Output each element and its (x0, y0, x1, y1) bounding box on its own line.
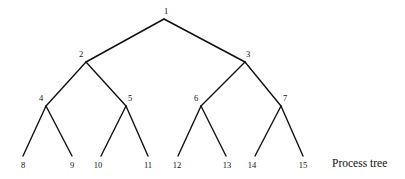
tree-node-15: 15 (299, 161, 308, 170)
tree-edge-7-14 (255, 106, 281, 156)
tree-edge-2-5 (86, 62, 126, 106)
tree-node-10: 10 (94, 161, 103, 170)
tree-edge-2-4 (46, 62, 86, 106)
tree-node-1: 1 (164, 7, 168, 16)
process-tree-figure: 123456789101112131415 Process tree (0, 0, 405, 179)
tree-node-7: 7 (283, 94, 287, 103)
tree-node-11: 11 (144, 161, 152, 170)
tree-node-14: 14 (248, 161, 257, 170)
tree-edges-svg (0, 0, 405, 179)
tree-node-5: 5 (128, 94, 132, 103)
tree-edge-4-9 (46, 106, 72, 156)
tree-edge-3-7 (245, 62, 281, 106)
tree-edge-5-11 (126, 106, 148, 156)
edge-group (23, 19, 303, 156)
tree-node-9: 9 (70, 161, 74, 170)
tree-node-8: 8 (21, 161, 25, 170)
tree-edge-1-3 (164, 19, 245, 62)
tree-edge-6-13 (201, 106, 226, 156)
tree-node-3: 3 (246, 50, 250, 59)
figure-caption: Process tree (332, 158, 387, 170)
tree-edge-6-12 (178, 106, 201, 156)
tree-node-12: 12 (173, 161, 182, 170)
tree-edge-3-6 (201, 62, 245, 106)
tree-node-2: 2 (79, 50, 83, 59)
tree-edge-5-10 (101, 106, 126, 156)
tree-edge-1-2 (86, 19, 164, 62)
tree-edge-7-15 (281, 106, 303, 156)
tree-node-13: 13 (223, 161, 232, 170)
tree-node-6: 6 (194, 94, 198, 103)
tree-edge-4-8 (23, 106, 46, 156)
tree-node-4: 4 (39, 94, 43, 103)
